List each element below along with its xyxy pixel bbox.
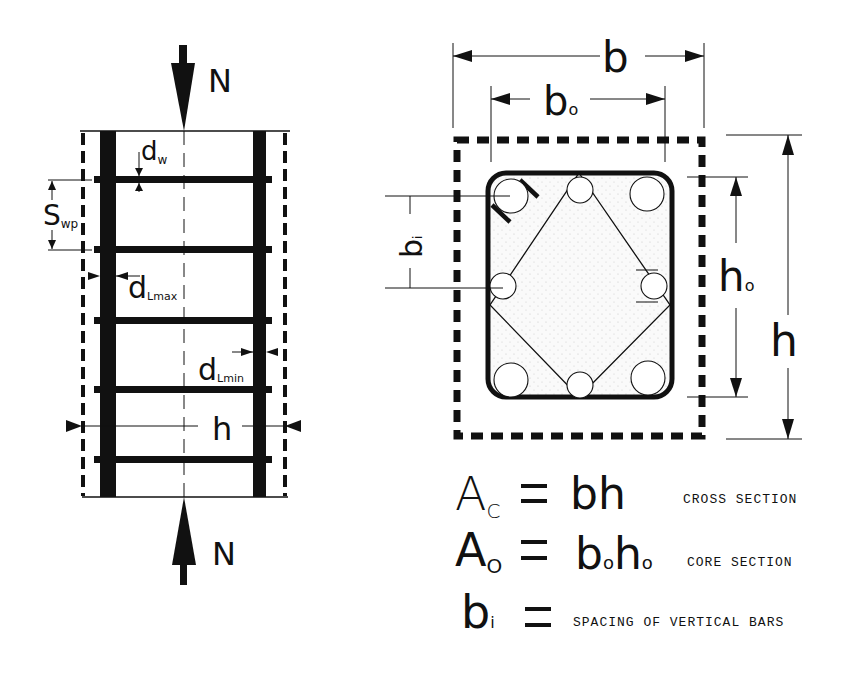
formula-cross-section: AC bh CROSS SECTION	[455, 467, 797, 523]
bar-mid	[567, 372, 593, 398]
formula-lhs: AO	[455, 523, 502, 578]
stirrup	[94, 456, 272, 463]
longitudinal-bar-left	[100, 131, 116, 497]
bar-spacing-label: bi	[394, 236, 429, 258]
bar-corner	[494, 363, 528, 397]
column-cross-section: b bo ho h	[385, 33, 802, 439]
bar-mid	[490, 273, 516, 299]
formula-core-section: AO boho CORE SECTION	[455, 523, 793, 579]
stirrup-spacing-label: Swp	[43, 199, 78, 232]
formula-rhs: boho	[575, 528, 653, 579]
stirrup	[94, 386, 272, 393]
long-bar-max-label: dLmax	[128, 270, 178, 305]
column-width-label: h	[212, 410, 232, 448]
formulas: AC bh CROSS SECTION AO boho CORE SECTION…	[455, 467, 797, 639]
core-width-dimension	[491, 86, 665, 162]
load-label-bottom: N	[212, 535, 236, 573]
formula-bar-spacing: bi SPACING OF VERTICAL BARS	[461, 585, 784, 639]
stirrups	[94, 176, 272, 463]
long-bar-min-label: dLmin	[198, 352, 244, 387]
load-label-top: N	[208, 62, 232, 100]
svg-text:bi: bi	[394, 236, 429, 258]
height-h-label: h	[770, 315, 798, 366]
longitudinal-bar-right	[253, 131, 266, 497]
formula-description: CROSS SECTION	[683, 492, 797, 507]
stirrup	[94, 246, 272, 253]
stirrup-diameter-label: dw	[141, 136, 168, 167]
column-diagram: N N dw Swp dLma	[0, 0, 850, 683]
stirrup	[94, 317, 272, 324]
core-width-label: bo	[543, 78, 578, 124]
axial-load-arrow-top	[171, 45, 195, 131]
bar-corner	[630, 177, 664, 211]
column-elevation: N N dw Swp dLma	[43, 45, 301, 585]
bar-corner	[631, 361, 665, 395]
formula-description: SPACING OF VERTICAL BARS	[573, 615, 784, 630]
width-b-label: b	[602, 33, 629, 82]
axial-load-arrow-bottom	[172, 497, 196, 585]
formula-rhs: bh	[570, 468, 626, 519]
bar-mid	[641, 273, 667, 299]
formula-lhs: bi	[461, 585, 495, 639]
stirrup	[94, 176, 272, 183]
formula-lhs: AC	[455, 467, 500, 523]
arrow-down-icon	[171, 63, 195, 131]
formula-description: CORE SECTION	[687, 555, 793, 570]
core-height-label: ho	[718, 252, 754, 301]
arrow-up-icon	[172, 497, 196, 565]
bar-mid	[567, 177, 593, 203]
